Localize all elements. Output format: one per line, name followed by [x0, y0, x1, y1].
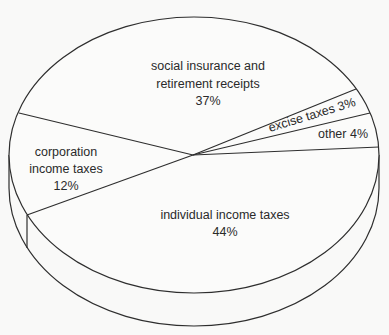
svg-text:income taxes: income taxes — [29, 162, 103, 176]
svg-text:corporation: corporation — [35, 145, 98, 159]
pie-chart: social insurance and retirement receipts… — [0, 0, 389, 335]
svg-text:retirement receipts: retirement receipts — [156, 77, 260, 91]
svg-text:37%: 37% — [195, 94, 220, 108]
svg-text:individual income taxes: individual income taxes — [160, 208, 289, 222]
svg-text:social insurance and: social insurance and — [151, 59, 265, 73]
svg-text:44%: 44% — [212, 225, 237, 239]
svg-text:12%: 12% — [53, 179, 78, 193]
svg-text:other 4%: other 4% — [318, 127, 368, 141]
label-other: other 4% — [318, 127, 368, 141]
